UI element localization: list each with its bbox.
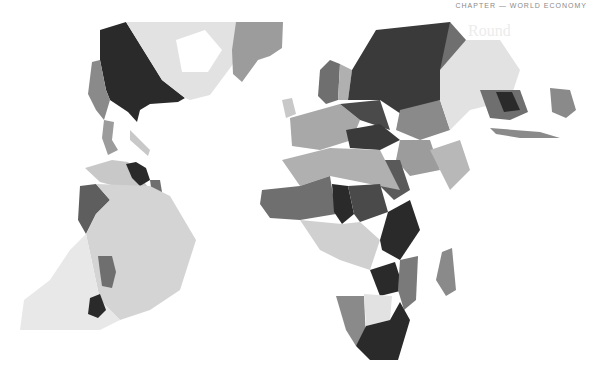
region-sudan — [348, 184, 388, 222]
region-greenland — [232, 22, 283, 82]
map-svg — [0, 0, 593, 385]
region-scandinavia — [318, 60, 340, 104]
region-madagascar — [436, 248, 456, 296]
region-uk — [282, 98, 296, 118]
region-caribbean — [130, 130, 150, 156]
region-indonesia — [490, 128, 560, 138]
region-australia — [550, 88, 576, 118]
region-mozambique — [398, 256, 418, 310]
region-central-america — [102, 120, 118, 155]
region-north-africa — [282, 148, 400, 190]
choropleth-world-map — [0, 0, 593, 385]
region-central-africa — [300, 220, 380, 270]
